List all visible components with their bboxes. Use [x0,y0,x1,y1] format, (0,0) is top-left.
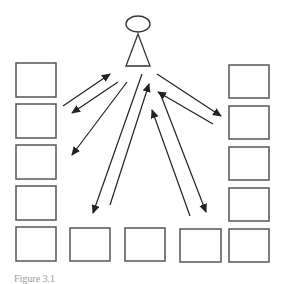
arrow-9-toward-person [152,110,190,216]
bottom-row-box-1 [70,228,110,261]
left-box-column [16,63,56,261]
person-body [126,34,150,66]
right-column-box-1 [229,65,269,98]
right-column-box-4 [229,188,269,221]
left-column-box-2 [16,104,56,138]
bottom-row-box-3 [180,229,221,262]
left-column-box-3 [16,145,56,179]
arrow-1-toward-person [63,74,110,106]
person-icon [126,16,150,66]
left-column-box-5 [16,227,56,261]
right-column-box-2 [229,106,269,139]
left-column-box-4 [16,186,56,220]
arrow-3-away-from-person [72,82,127,155]
arrow-5-toward-person [110,84,149,205]
person-head [126,16,150,32]
figure-caption: Figure 3.1 [14,274,55,284]
right-box-column [229,65,269,262]
bottom-box-row [70,228,221,262]
arrow-group [63,74,221,216]
bottom-row-box-2 [125,228,165,261]
right-column-box-3 [229,147,269,180]
arrow-2-away-from-person [72,82,118,113]
right-column-box-5 [229,229,269,262]
left-column-box-1 [16,63,56,97]
